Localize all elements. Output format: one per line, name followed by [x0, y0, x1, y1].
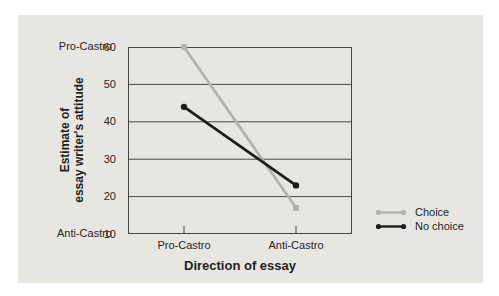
x-axis-title: Direction of essay	[128, 258, 352, 273]
y-tick-label-50: 50	[58, 78, 116, 91]
legend-item-no-choice: No choice	[375, 220, 464, 233]
y-axis-title: Estimate of essay writer's attitude	[58, 70, 88, 210]
y-tick-label-20: 20	[58, 190, 116, 203]
marker-no-choice-0	[181, 104, 187, 110]
legend-label-choice: Choice	[415, 206, 449, 219]
legend-swatch-choice-icon	[375, 208, 407, 217]
series-line-no-choice	[184, 107, 296, 186]
plot-frame	[129, 48, 352, 234]
legend-swatch-no-choice-icon	[375, 222, 407, 231]
x-category-label-1: Anti-Castro	[251, 239, 341, 252]
marker-choice-1	[293, 205, 299, 211]
y-tick-label-30: 30	[58, 153, 116, 166]
marker-no-choice-1	[293, 182, 299, 188]
figure-canvas: Pro-Castro Anti-Castro Estimate of essay…	[0, 0, 499, 296]
marker-choice-0	[181, 44, 187, 50]
y-axis-title-line-1: Estimate of	[58, 70, 72, 210]
legend: ChoiceNo choice	[375, 206, 464, 234]
series-line-choice	[184, 47, 296, 208]
y-tick-label-60: 60	[58, 41, 116, 54]
legend-label-no-choice: No choice	[415, 220, 464, 233]
y-tick-label-40: 40	[58, 115, 116, 128]
y-tick-label-10: 10	[58, 228, 116, 241]
legend-item-choice: Choice	[375, 206, 464, 219]
chart-panel: Pro-Castro Anti-Castro Estimate of essay…	[18, 15, 483, 283]
y-axis-title-line-2: essay writer's attitude	[72, 70, 86, 210]
x-category-label-0: Pro-Castro	[139, 239, 229, 252]
plot-area	[128, 47, 352, 234]
